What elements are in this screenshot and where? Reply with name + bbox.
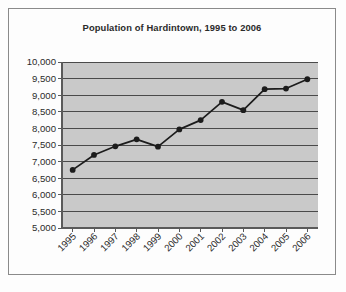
y-axis-tick-labels: 5,0005,5006,0006,5007,0007,5008,0008,500… bbox=[27, 56, 56, 233]
data-point bbox=[112, 143, 118, 149]
data-point bbox=[283, 86, 289, 92]
chart-figure: Population of Hardintown, 1995 to 2006 5… bbox=[0, 0, 346, 292]
x-tick-label: 1998 bbox=[119, 231, 142, 254]
y-tick-label: 5,000 bbox=[32, 222, 56, 233]
x-tick-label: 2006 bbox=[290, 231, 313, 254]
data-point bbox=[70, 167, 76, 173]
data-point bbox=[176, 127, 182, 133]
data-point bbox=[219, 99, 225, 105]
x-tick-label: 2002 bbox=[205, 231, 228, 254]
x-tick-label: 2003 bbox=[226, 231, 249, 254]
x-tick-label: 1996 bbox=[77, 231, 100, 254]
data-point bbox=[240, 107, 246, 113]
data-point bbox=[262, 86, 268, 92]
x-tick-label: 2005 bbox=[269, 231, 292, 254]
plot-area: 5,0005,5006,0006,5007,0007,5008,0008,500… bbox=[27, 56, 318, 253]
y-tick-label: 10,000 bbox=[27, 56, 56, 67]
y-tick-label: 5,500 bbox=[32, 206, 56, 217]
data-point bbox=[198, 117, 204, 123]
y-tick-label: 8,000 bbox=[32, 123, 56, 134]
x-axis-ticks bbox=[73, 228, 308, 232]
y-tick-label: 9,000 bbox=[32, 90, 56, 101]
x-axis-tick-labels: 1995199619971998199920002001200220032004… bbox=[55, 230, 313, 253]
data-point bbox=[134, 136, 140, 142]
y-tick-label: 6,000 bbox=[32, 189, 56, 200]
data-point bbox=[155, 144, 161, 150]
y-tick-label: 7,500 bbox=[32, 139, 56, 150]
y-tick-label: 9,500 bbox=[32, 73, 56, 84]
y-tick-label: 8,500 bbox=[32, 106, 56, 117]
data-point bbox=[304, 76, 310, 82]
x-tick-label: 1999 bbox=[141, 231, 164, 254]
data-point bbox=[91, 152, 97, 158]
y-tick-label: 7,000 bbox=[32, 156, 56, 167]
x-tick-label: 2001 bbox=[183, 231, 206, 254]
line-chart-plot: 5,0005,5006,0006,5007,0007,5008,0008,500… bbox=[8, 8, 336, 275]
x-tick-label: 1997 bbox=[98, 231, 121, 254]
x-tick-label: 2000 bbox=[162, 231, 185, 254]
x-tick-label: 1995 bbox=[55, 231, 78, 254]
x-tick-label: 2004 bbox=[247, 230, 270, 253]
y-tick-label: 6,500 bbox=[32, 173, 56, 184]
